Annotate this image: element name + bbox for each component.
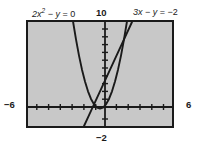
y-axis-top-label: 10 xyxy=(96,8,107,18)
equation-label-line: 3x − y = −2 xyxy=(133,8,178,17)
equation-left-minus-y: − y xyxy=(48,9,60,19)
x-axis-left-label: −6 xyxy=(4,100,15,110)
y-axis-bottom-label: −2 xyxy=(96,133,107,143)
equation-right-minus-y: − y xyxy=(145,7,157,17)
x-axis-right-label: 6 xyxy=(186,100,191,110)
equation-left-exponent: 2 xyxy=(42,7,46,14)
plot-area xyxy=(26,20,174,130)
equation-right-var: x xyxy=(138,7,143,17)
plot-frame xyxy=(27,21,173,127)
graph-figure: 2x2 − y = 0 3x − y = −2 10 −2 −6 6 xyxy=(0,0,199,150)
equation-label-parabola: 2x2 − y = 0 xyxy=(32,8,75,19)
equation-left-equals: = 0 xyxy=(62,9,75,19)
equation-right-equals: = −2 xyxy=(160,7,178,17)
